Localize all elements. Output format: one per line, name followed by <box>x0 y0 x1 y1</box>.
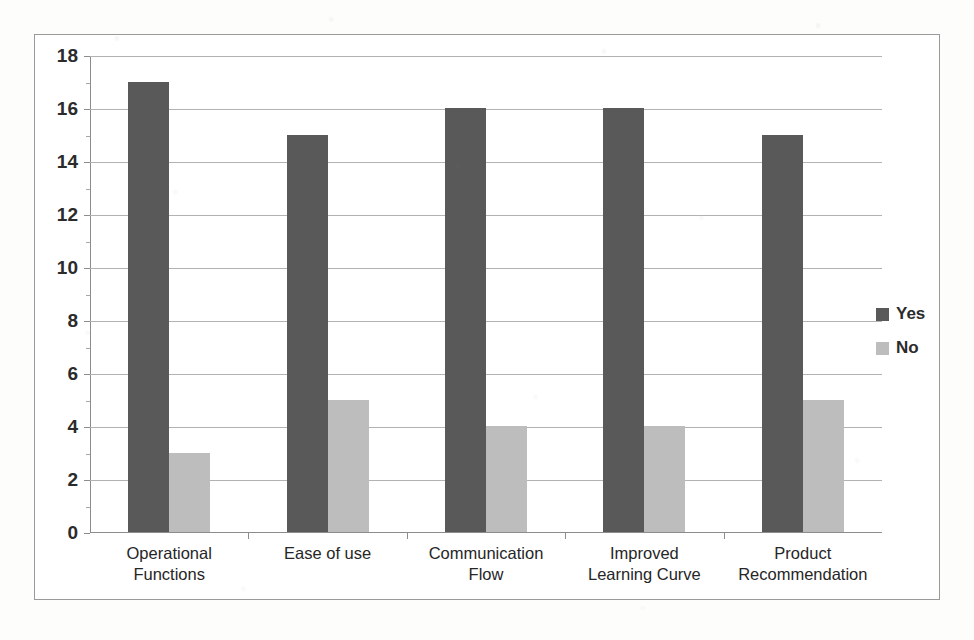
x-category-label-line: Operational <box>127 543 212 564</box>
y-tick-label: 2 <box>67 469 78 491</box>
x-category-label: Ease of use <box>284 543 371 564</box>
y-minor-tick-mark <box>86 83 90 84</box>
bar-no-1 <box>328 400 369 533</box>
y-tick-mark <box>84 533 90 534</box>
plot-area: 024681012141618 OperationalFunctionsEase… <box>90 56 882 533</box>
bar-yes-3 <box>603 108 644 532</box>
chart-legend: YesNo <box>876 297 925 365</box>
bar-no-3 <box>644 426 685 532</box>
x-category-label-line: Functions <box>127 564 212 585</box>
legend-label: No <box>896 338 919 358</box>
y-minor-tick-mark <box>86 189 90 190</box>
y-minor-tick-mark <box>86 348 90 349</box>
legend-swatch-icon <box>876 342 889 355</box>
x-category-label: CommunicationFlow <box>429 543 544 585</box>
y-minor-tick-mark <box>86 507 90 508</box>
y-tick-mark <box>84 56 90 57</box>
chart-frame: 024681012141618 OperationalFunctionsEase… <box>34 34 940 600</box>
y-tick-label: 4 <box>67 416 78 438</box>
y-tick-mark <box>84 109 90 110</box>
y-tick-mark <box>84 321 90 322</box>
y-minor-tick-mark <box>86 401 90 402</box>
x-tick-mark <box>407 533 408 539</box>
x-category-label: ImprovedLearning Curve <box>588 543 701 585</box>
x-category-label-line: Flow <box>429 564 544 585</box>
x-tick-mark <box>565 533 566 539</box>
y-tick-mark <box>84 268 90 269</box>
y-tick-mark <box>84 480 90 481</box>
x-category-label-line: Ease of use <box>284 543 371 564</box>
y-minor-tick-mark <box>86 242 90 243</box>
bar-yes-4 <box>762 135 803 533</box>
bar-no-4 <box>803 400 844 533</box>
x-category-label-line: Communication <box>429 543 544 564</box>
x-tick-mark <box>724 533 725 539</box>
y-minor-tick-mark <box>86 136 90 137</box>
bar-no-0 <box>169 453 210 533</box>
x-category-label-line: Recommendation <box>738 564 867 585</box>
y-minor-tick-mark <box>86 454 90 455</box>
legend-label: Yes <box>896 304 925 324</box>
y-tick-label: 8 <box>67 310 78 332</box>
y-tick-label: 12 <box>57 204 78 226</box>
x-category-label: OperationalFunctions <box>127 543 212 585</box>
y-tick-label: 14 <box>57 151 78 173</box>
y-tick-mark <box>84 162 90 163</box>
x-category-label: ProductRecommendation <box>738 543 867 585</box>
gridline <box>90 109 882 110</box>
legend-swatch-icon <box>876 308 889 321</box>
gridline <box>90 56 882 57</box>
y-tick-label: 6 <box>67 363 78 385</box>
x-category-label-line: Product <box>738 543 867 564</box>
y-tick-label: 10 <box>57 257 78 279</box>
bar-yes-0 <box>128 82 169 533</box>
legend-item-no[interactable]: No <box>876 331 925 365</box>
x-tick-mark <box>248 533 249 539</box>
y-tick-mark <box>84 374 90 375</box>
y-tick-label: 16 <box>57 98 78 120</box>
x-category-label-line: Improved <box>588 543 701 564</box>
bar-no-2 <box>486 426 527 532</box>
y-tick-mark <box>84 427 90 428</box>
x-axis-line <box>90 532 882 533</box>
y-tick-mark <box>84 215 90 216</box>
y-axis-line <box>90 56 91 533</box>
x-category-label-line: Learning Curve <box>588 564 701 585</box>
bar-yes-1 <box>287 135 328 533</box>
legend-item-yes[interactable]: Yes <box>876 297 925 331</box>
y-minor-tick-mark <box>86 295 90 296</box>
y-tick-label: 0 <box>67 522 78 544</box>
bar-yes-2 <box>445 108 486 532</box>
y-tick-label: 18 <box>57 45 78 67</box>
